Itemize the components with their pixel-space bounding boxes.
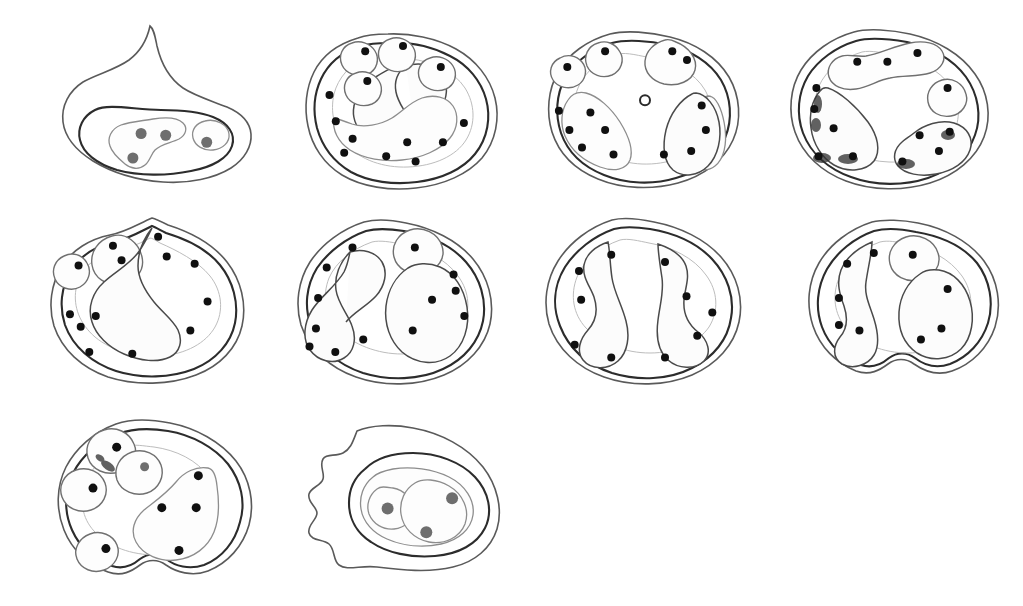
marker-dot (937, 325, 945, 333)
panel-1-core-lobe (109, 118, 186, 168)
marker-dot (331, 348, 339, 356)
marker-dot (323, 263, 331, 271)
cross-section-panel-1 (55, 18, 260, 193)
panel-7-drawing (536, 208, 751, 388)
marker-dot (661, 353, 669, 361)
marker-dot (450, 271, 458, 279)
marker-dot (154, 233, 162, 241)
marker-dot (563, 63, 571, 71)
marker-dot (66, 310, 74, 318)
marker-dot (578, 144, 586, 152)
marker-dot (194, 471, 203, 480)
cross-section-panel-8 (800, 208, 1005, 388)
marker-dot (830, 124, 838, 132)
marker-dot (607, 251, 615, 259)
marker-dot (332, 117, 340, 125)
marker-dot (944, 84, 952, 92)
marker-dot (898, 158, 906, 166)
panel-7-left-lobe (579, 242, 628, 368)
marker-dot (175, 546, 184, 555)
marker-dot (855, 326, 863, 334)
marker-dot (428, 296, 436, 304)
marker-dot-gray (201, 137, 212, 148)
marker-dot (411, 244, 419, 252)
cross-section-panel-10 (293, 415, 508, 585)
panel-10-drawing (293, 415, 508, 585)
marker-dot (340, 149, 348, 157)
marker-dot (843, 260, 851, 268)
marker-dot (668, 47, 676, 55)
marker-dot (708, 308, 716, 316)
marker-dot (312, 325, 320, 333)
cross-section-panel-5 (42, 208, 257, 388)
marker-dot (75, 262, 83, 270)
marker-dot (306, 343, 314, 351)
marker-dot (314, 294, 322, 302)
marker-dot-gray (136, 128, 147, 139)
marker-dot-gray (420, 526, 432, 538)
marker-dot-gray (160, 130, 171, 141)
cross-section-panel-2 (298, 18, 508, 193)
panel-1-drawing (55, 18, 260, 193)
marker-dot (870, 249, 878, 257)
marker-dot (810, 105, 818, 113)
cross-section-panel-6 (288, 208, 503, 388)
marker-dot (835, 294, 843, 302)
marker-dot (849, 152, 857, 160)
marker-dot (661, 258, 669, 266)
marker-dot (575, 267, 583, 275)
cross-section-panel-7 (536, 208, 751, 388)
panel-6-right-basal-lobe (386, 264, 468, 363)
marker-dot (944, 285, 952, 293)
open-ring-marker (640, 95, 650, 105)
marker-dot-gray (127, 153, 138, 164)
marker-dot (326, 91, 334, 99)
marker-dot (118, 256, 126, 264)
marker-dot (361, 47, 369, 55)
marker-dot (109, 242, 117, 250)
marker-dot (85, 348, 93, 356)
marker-dot (403, 138, 411, 146)
panel-3-right-crescent (664, 93, 720, 175)
marker-dot (363, 77, 371, 85)
marker-dot (101, 544, 110, 553)
marker-dot (412, 158, 420, 166)
marker-dot (349, 135, 357, 143)
marker-dot-gray (446, 492, 458, 504)
marker-dot (909, 251, 917, 259)
marker-dot (359, 335, 367, 343)
marker-dot (917, 335, 925, 343)
cross-section-panel-9 (50, 408, 265, 586)
panel-6-drawing (288, 208, 503, 388)
marker-dot (946, 128, 954, 136)
marker-dot (349, 244, 357, 252)
marker-dot (439, 138, 447, 146)
marker-dot (204, 298, 212, 306)
marker-dot (460, 312, 468, 320)
marker-dot-gray (140, 462, 149, 471)
marker-dot (683, 292, 691, 300)
marker-dot (916, 131, 924, 139)
marker-dot (610, 151, 618, 159)
marker-dot (913, 49, 921, 57)
marker-dot (607, 353, 615, 361)
marker-dot (601, 126, 609, 134)
marker-dot (192, 503, 201, 512)
panel-3-upper-pods (551, 40, 696, 88)
marker-dot (89, 484, 98, 493)
marker-dot (565, 126, 573, 134)
marker-dot (157, 503, 166, 512)
marker-dot (601, 47, 609, 55)
marker-dot (660, 151, 668, 159)
marker-dot (835, 321, 843, 329)
panel-9-drawing (50, 408, 265, 586)
panel-8-drawing (800, 208, 1005, 388)
marker-dot (935, 147, 943, 155)
figure-plate (0, 0, 1023, 606)
marker-dot (437, 63, 445, 71)
marker-dot (128, 350, 136, 358)
panel-2-drawing (298, 18, 508, 193)
marker-dot (571, 341, 579, 349)
panel-7-outer-contour (546, 219, 741, 384)
panel-8-left-c-lobe (835, 242, 878, 367)
